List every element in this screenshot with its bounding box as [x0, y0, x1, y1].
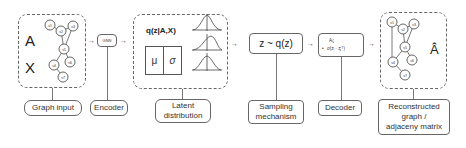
sampling-label-line1: Sampling — [259, 102, 292, 112]
sigma-cell: σ — [164, 47, 181, 74]
reconstructed-label-line1: Reconstructed — [388, 102, 440, 112]
gnn-block: GNN — [97, 34, 117, 47]
reconstructed-matrix-label: Â — [430, 42, 439, 57]
connector-encoder — [107, 47, 108, 100]
latent-label: Latent distribution — [155, 99, 211, 123]
matrix-a-label: A — [25, 32, 35, 49]
sampling-formula: z ~ q(z) — [259, 38, 293, 49]
graph-input-panel — [18, 14, 86, 88]
mu-sigma-block: μ σ — [145, 46, 182, 75]
decoder-formula-line1: Aᵢⱼ — [329, 38, 334, 43]
decoder-formula-line2: σ(zᵢ · zⱼᵀ) — [327, 46, 345, 51]
reconstructed-label-line2: graph / — [402, 112, 427, 122]
sampling-label: Sampling mechanism — [248, 100, 304, 124]
decoder-label: Decoder — [318, 100, 362, 116]
arrow-icon: → — [120, 37, 127, 44]
connector-latent — [182, 89, 183, 99]
arrow-icon: → — [231, 40, 238, 47]
connector-sampling — [276, 54, 277, 100]
arrow-icon: → — [368, 40, 375, 47]
connector-decoder — [341, 57, 342, 100]
latent-label-line1: Latent — [172, 101, 194, 111]
connector-reconstructed — [413, 89, 414, 99]
matrix-x-label: X — [25, 59, 35, 76]
graph-input-label: Graph input — [24, 100, 82, 116]
arrow-icon: → — [88, 37, 95, 44]
gnn-label: GNN — [103, 38, 112, 43]
arrow-icon: → — [307, 40, 314, 47]
latent-label-line2: distribution — [164, 111, 203, 121]
reconstructed-label-line3: adjaceny matrix — [386, 122, 442, 132]
connector-graph-input — [52, 88, 53, 100]
posterior-title: q(z|A,X) — [146, 26, 176, 35]
sampling-block: z ~ q(z) — [249, 33, 303, 54]
encoder-label: Encoder — [90, 100, 128, 116]
decoder-bullet: • — [322, 46, 324, 51]
reconstructed-label: Reconstructed graph / adjaceny matrix — [378, 99, 450, 135]
decoder-block: Aᵢⱼ • σ(zᵢ · zⱼᵀ) — [318, 33, 364, 57]
mu-cell: μ — [146, 47, 164, 74]
sampling-label-line2: mechanism — [256, 112, 297, 122]
